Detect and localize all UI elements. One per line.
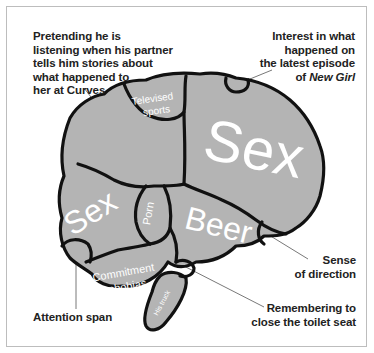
- callout-line: listening when his partner: [33, 44, 173, 58]
- callout-line: what happened to: [33, 71, 173, 85]
- callout-line: tells him stories about: [33, 57, 173, 71]
- callout-sense-direction: Sense of direction: [260, 254, 356, 281]
- callout-line: Sense: [260, 254, 356, 268]
- callout-line: Remembering to: [216, 302, 356, 316]
- callout-line: of New Girl: [230, 71, 355, 85]
- callout-attention-span: Attention span: [33, 311, 112, 325]
- callout-line: her at Curves: [33, 84, 173, 98]
- callout-toilet-seat: Remembering to close the toilet seat: [216, 302, 356, 329]
- callout-pretending: Pretending he is listening when his part…: [33, 30, 173, 98]
- callout-line: happened on: [230, 44, 355, 58]
- callout-line: close the toilet seat: [216, 316, 356, 330]
- callout-line: of direction: [260, 268, 356, 282]
- callout-prefix: of: [295, 71, 309, 83]
- callout-new-girl: Interest in what happened on the latest …: [230, 30, 355, 84]
- show-title: New Girl: [309, 71, 355, 83]
- callout-line: the latest episode: [230, 57, 355, 71]
- callout-line: Interest in what: [230, 30, 355, 44]
- callout-line: Pretending he is: [33, 30, 173, 44]
